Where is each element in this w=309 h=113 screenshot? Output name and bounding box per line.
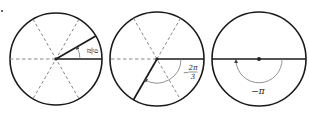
terminal-side [134,59,158,100]
panel-minus-pi: −π [212,12,306,106]
panel-minus-2pi-over-3: − 2π 3 [110,12,204,106]
center-point [155,57,158,60]
angle-label: π 6 [85,48,100,55]
angle-label: − 2π 3 [183,64,198,81]
center-point [257,57,261,61]
panel-pi-over-6: π 6 [10,13,102,105]
angle-arc [77,47,80,59]
dashed-radius [157,18,181,59]
svg-text:2π: 2π [187,64,197,72]
angle-arc [236,59,282,83]
svg-text:3: 3 [191,73,196,81]
angle-label: −π [251,86,266,96]
terminal-side [56,36,96,59]
figure-marker [1,10,3,12]
svg-text:6: 6 [92,48,100,53]
unit-circle-angles-figure: π 6 − 2π 3 −π [0,0,309,113]
center-point [54,57,57,60]
